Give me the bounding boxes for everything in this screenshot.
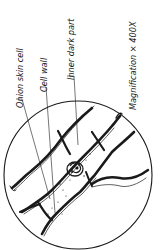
svg-text:Inner dark part: Inner dark part (66, 18, 76, 80)
microscope-diagram: Onion skin cell Cell wall Inner dark par… (0, 0, 162, 250)
cross-wall-3 (38, 202, 52, 220)
leader-lines (16, 76, 78, 213)
label-inner-dark-part: Inner dark part (66, 18, 76, 80)
label-magnification: Magnification × 400X (128, 21, 138, 110)
svg-text:Magnification × 400X: Magnification × 400X (128, 21, 138, 110)
leader-inner-dark-part (67, 76, 78, 145)
